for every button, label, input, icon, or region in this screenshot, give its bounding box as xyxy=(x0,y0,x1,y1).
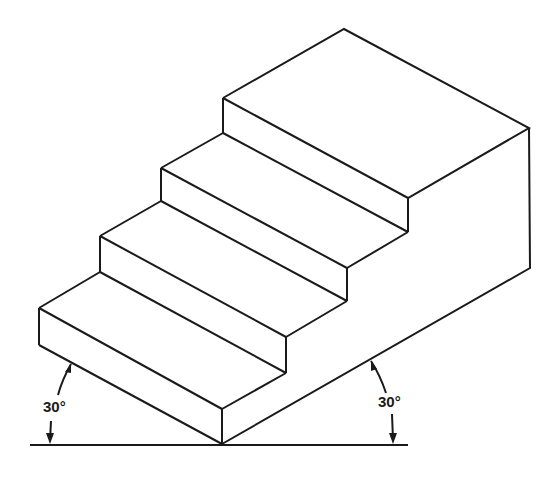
right-angle-label: 30° xyxy=(378,393,401,410)
stairs-outline xyxy=(39,29,530,444)
isometric-stairs-drawing xyxy=(0,0,559,482)
left-angle-label: 30° xyxy=(43,398,66,415)
